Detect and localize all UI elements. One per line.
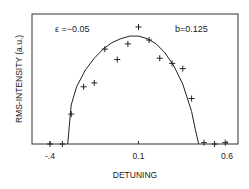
data-point [114, 57, 120, 63]
data-point [59, 141, 65, 147]
data-point [157, 55, 163, 61]
data-point [201, 140, 207, 146]
data-point [125, 41, 131, 47]
theory-curve [68, 36, 199, 144]
data-point [81, 84, 87, 90]
annotation-epsilon: ε =−0.05 [55, 24, 90, 34]
y-axis-label: RMS-INTENSITY (a.u.) [14, 35, 24, 123]
data-point [169, 60, 175, 66]
svg-text:-.4: -.4 [45, 151, 55, 161]
data-point [47, 141, 53, 147]
data-points [47, 24, 228, 147]
data-point [136, 24, 142, 30]
data-point [146, 37, 152, 43]
data-point [222, 140, 228, 146]
data-point [212, 141, 218, 147]
annotation-b: b=0.125 [175, 24, 208, 34]
data-point [68, 111, 74, 117]
data-point [180, 66, 186, 72]
x-axis-label: DETUNING [113, 170, 157, 180]
svg-text:0.6: 0.6 [221, 151, 233, 161]
svg-text:0.1: 0.1 [133, 151, 145, 161]
x-tick-labels: -.40.10.6 [45, 151, 233, 161]
data-point [102, 46, 108, 52]
data-point [189, 96, 195, 102]
chart: -.40.10.6 ε =−0.05 b=0.125 DETUNING RMS-… [0, 0, 249, 189]
data-point [91, 80, 97, 86]
